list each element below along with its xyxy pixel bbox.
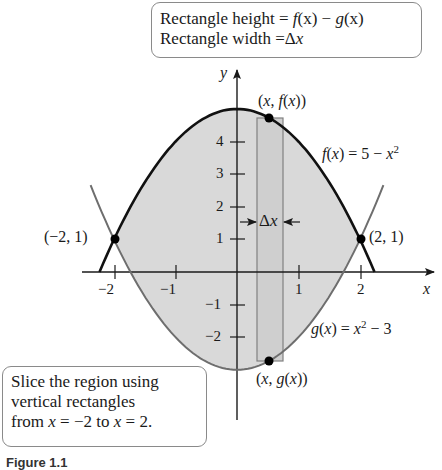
slicing-instruction-callout: Slice the region using vertical rectangl…: [2, 366, 207, 447]
y-tick-label: 2: [216, 198, 224, 215]
y-tick-label: −1: [205, 296, 221, 313]
g-function-label: g(x) = x2 − 3: [311, 318, 391, 338]
y-tick-label: 3: [216, 165, 224, 182]
instruction-line-1: Slice the region using: [11, 372, 198, 392]
instruction-line-2: vertical rectangles: [11, 392, 198, 412]
point-x-gx-label: (x, g(x)): [256, 370, 308, 388]
intersection-right-label: (2, 1): [369, 228, 404, 246]
intersection-point-left: [111, 235, 120, 244]
x-tick-label: 2: [357, 281, 365, 298]
rectangle-dimensions-callout: Rectangle height = f(x) − g(x) Rectangle…: [151, 2, 422, 58]
intersection-point-right: [357, 235, 366, 244]
f-function-label: f(x) = 5 − x2: [322, 143, 399, 163]
y-tick-label: 1: [216, 230, 224, 247]
y-axis-label: y: [220, 64, 227, 82]
point-x-fx-label: (x, f(x)): [258, 92, 306, 110]
y-tick-label: −2: [205, 328, 221, 345]
delta-x-label: Δx: [259, 211, 277, 231]
instruction-line-3: from x = −2 to x = 2.: [11, 412, 198, 432]
x-tick-label: 1: [295, 281, 303, 298]
representative-rectangle: [257, 118, 283, 361]
intersection-left-label: (−2, 1): [44, 228, 88, 246]
y-tick-label: 4: [216, 133, 224, 150]
rectangle-width-text: Rectangle width =Δx: [160, 29, 413, 49]
point-x-fx: [265, 114, 274, 123]
x-tick-label: −1: [160, 281, 176, 298]
figure-caption: Figure 1.1: [6, 455, 67, 470]
x-tick-label: −2: [98, 281, 114, 298]
rectangle-height-text: Rectangle height = f(x) − g(x): [160, 9, 413, 29]
x-axis-label: x: [423, 280, 430, 298]
point-x-gx: [265, 357, 274, 366]
